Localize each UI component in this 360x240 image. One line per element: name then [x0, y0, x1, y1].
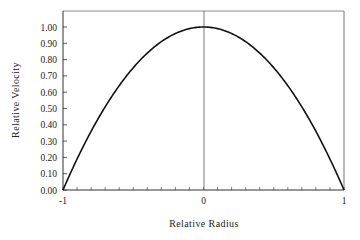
y-tick-label: 0.80 [40, 55, 57, 65]
y-tick-label: 0.30 [40, 137, 57, 147]
x-axis-title: Relative Radius [169, 218, 239, 229]
plot-frame [63, 11, 344, 190]
x-tick-label: -1 [59, 196, 67, 206]
velocity-curve [63, 27, 344, 190]
y-tick-label: 0.20 [40, 153, 57, 163]
y-tick-label: 0.90 [40, 39, 57, 49]
y-tick-label: 0.40 [40, 120, 57, 130]
chart: 0.000.100.200.300.400.500.600.700.800.90… [0, 0, 360, 240]
y-tick-label: 0.60 [40, 88, 57, 98]
y-axis-title: Relative Velocity [10, 62, 21, 138]
y-tick-label: 0.70 [40, 71, 57, 81]
x-tick-label: 1 [342, 196, 347, 206]
y-tick-label: 0.10 [40, 169, 57, 179]
y-tick-label: 0.50 [40, 104, 57, 114]
y-tick-label: 1.00 [40, 23, 57, 33]
y-tick-label: 0.00 [40, 186, 57, 196]
x-tick-label: 0 [201, 196, 206, 206]
